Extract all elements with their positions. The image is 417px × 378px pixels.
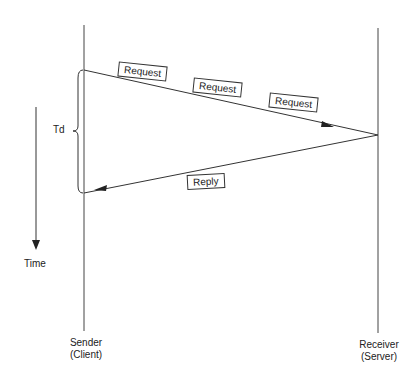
time-arrowhead-icon <box>32 240 40 250</box>
delay-brace-icon <box>73 70 83 193</box>
receiver-participant-label: Receiver (Server) <box>353 339 405 363</box>
sender-participant-label: Sender (Client) <box>64 337 108 361</box>
delay-label: Td <box>53 124 65 135</box>
diagram-canvas <box>0 0 417 378</box>
reply-line <box>84 135 378 193</box>
receiver-role: (Server) <box>353 351 405 363</box>
sender-name: Sender <box>64 337 108 349</box>
time-axis-label: Time <box>24 258 46 269</box>
request-arrowhead-icon <box>321 121 334 127</box>
request-line <box>84 70 378 135</box>
reply-label: Reply <box>187 173 225 190</box>
sender-role: (Client) <box>64 349 108 361</box>
reply-arrowhead-icon <box>94 185 107 191</box>
receiver-name: Receiver <box>353 339 405 351</box>
